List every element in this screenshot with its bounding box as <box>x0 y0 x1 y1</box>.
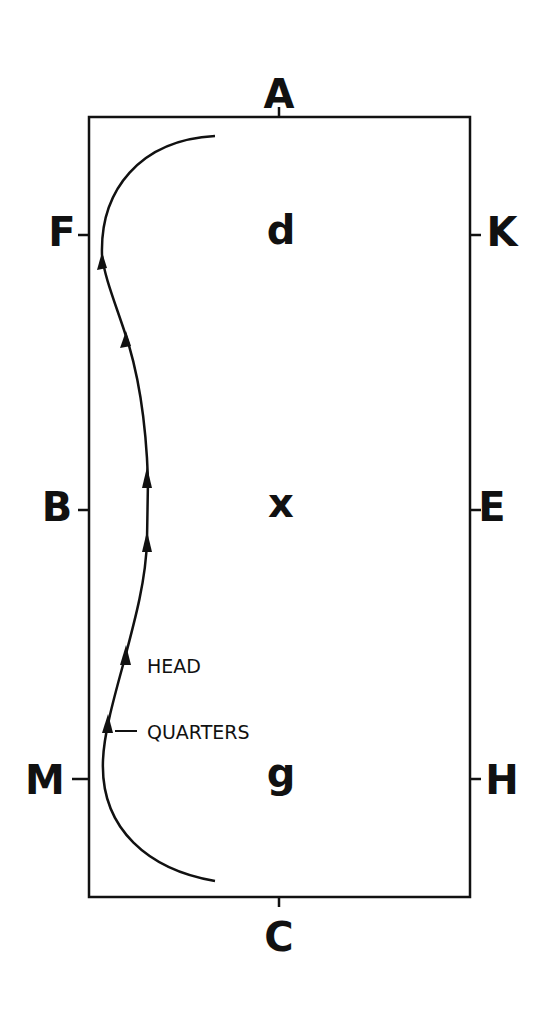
marker-B: B <box>42 484 73 530</box>
centerline-x: x <box>268 480 294 526</box>
marker-F: F <box>48 209 75 255</box>
direction-arrows <box>97 252 152 733</box>
centerline-g: g <box>267 750 296 796</box>
centerline-d: d <box>267 207 296 253</box>
marker-C: C <box>264 914 293 960</box>
quarters-label: QUARTERS <box>147 721 250 743</box>
movement-path <box>102 136 215 881</box>
marker-K: K <box>487 209 520 255</box>
marker-E: E <box>478 484 505 530</box>
dressage-arena-diagram: A F K B E M H C d x g HEAD QUARTERS <box>0 0 558 1013</box>
marker-M: M <box>25 757 65 803</box>
marker-A: A <box>264 71 295 117</box>
head-label: HEAD <box>147 655 201 677</box>
marker-H: H <box>485 757 518 803</box>
